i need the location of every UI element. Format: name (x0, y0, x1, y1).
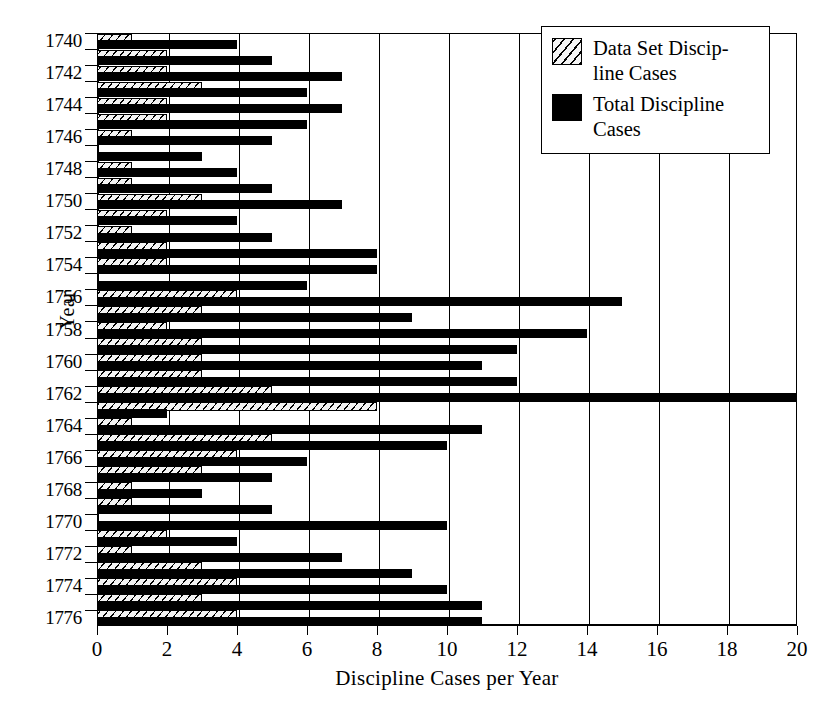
y-axis-tick (85, 562, 97, 563)
y-axis-tick (85, 129, 97, 130)
y-axis-tick (85, 305, 97, 306)
y-axis-tick (85, 145, 97, 146)
y-axis-tick (85, 177, 97, 178)
y-axis-tick (85, 418, 97, 419)
y-axis-tick-label: 1744 (12, 94, 82, 116)
y-axis-tick (85, 49, 97, 50)
y-axis-tick-label: 1758 (12, 319, 82, 341)
bar-total-1764 (97, 425, 482, 434)
bar-total-1751 (97, 216, 237, 225)
y-axis-tick (85, 225, 97, 226)
y-axis-tick (85, 354, 97, 355)
legend-swatch-solid-icon (552, 94, 582, 121)
y-axis-tick-label: 1752 (12, 222, 82, 244)
x-axis-tick-label: 20 (767, 637, 816, 662)
bar-total-1740 (97, 40, 237, 49)
y-axis-tick-label: 1774 (12, 575, 82, 597)
bar-total-1745 (97, 120, 307, 129)
legend-label-dataset: Data Set Discip- line Cases (593, 36, 729, 86)
bar-total-1776 (97, 617, 482, 626)
y-axis-tick (85, 273, 97, 274)
bar-total-1757 (97, 313, 412, 322)
x-axis-tick (657, 626, 658, 635)
y-axis-tick (85, 578, 97, 579)
bar-total-1747 (97, 152, 202, 161)
x-axis-tick (797, 626, 798, 635)
y-axis-tick-label: 1750 (12, 190, 82, 212)
y-axis-tick-label: 1748 (12, 158, 82, 180)
x-axis-tick (237, 626, 238, 635)
legend-label-total-line1: Total Discipline (593, 92, 724, 117)
y-axis-tick-label: 1740 (12, 30, 82, 52)
y-axis-tick (85, 33, 97, 34)
bar-total-1752 (97, 233, 272, 242)
legend-item-total: Total Discipline Cases (552, 92, 761, 142)
x-axis-title: Discipline Cases per Year (97, 666, 797, 691)
bar-total-1741 (97, 56, 272, 65)
y-axis-tick (85, 466, 97, 467)
y-axis-tick (85, 450, 97, 451)
y-axis-tick (85, 514, 97, 515)
bar-total-1769 (97, 505, 272, 514)
bar-total-1750 (97, 200, 342, 209)
y-axis-tick (85, 257, 97, 258)
y-axis-tick-label: 1756 (12, 286, 82, 308)
bar-total-1766 (97, 457, 307, 466)
legend-label-dataset-line2: line Cases (593, 61, 729, 86)
y-axis-tick-label: 1772 (12, 543, 82, 565)
x-axis-tick (307, 626, 308, 635)
bar-total-1749 (97, 184, 272, 193)
y-axis-tick-label: 1746 (12, 126, 82, 148)
y-axis-tick (85, 81, 97, 82)
x-axis-tick-label: 18 (697, 637, 757, 662)
bar-total-1763 (97, 409, 167, 418)
x-axis-tick (447, 626, 448, 635)
y-axis-tick (85, 193, 97, 194)
legend-swatch-hatched-icon (552, 38, 582, 65)
y-axis-tick-label: 1776 (12, 607, 82, 629)
y-axis-tick-label: 1766 (12, 447, 82, 469)
legend-label-dataset-line1: Data Set Discip- (593, 36, 729, 61)
y-axis-tick (85, 161, 97, 162)
y-axis-tick (85, 498, 97, 499)
legend-label-total-line2: Cases (593, 117, 724, 142)
x-axis-tick-label: 0 (67, 637, 127, 662)
bar-total-1748 (97, 168, 237, 177)
bar-total-1754 (97, 265, 377, 274)
bar-total-1746 (97, 136, 272, 145)
y-axis-tick (85, 370, 97, 371)
y-axis-tick (85, 610, 97, 611)
y-axis-tick-label: 1762 (12, 383, 82, 405)
x-axis-tick (167, 626, 168, 635)
legend-label-total: Total Discipline Cases (593, 92, 724, 142)
x-axis-tick (587, 626, 588, 635)
y-axis-tick (85, 402, 97, 403)
x-axis-tick-label: 8 (347, 637, 407, 662)
bar-total-1743 (97, 88, 307, 97)
bar-total-1775 (97, 601, 482, 610)
x-axis-tick-label: 10 (417, 637, 477, 662)
y-axis-tick (85, 113, 97, 114)
y-axis-tick (85, 386, 97, 387)
y-axis-tick (85, 209, 97, 210)
bar-total-1753 (97, 249, 377, 258)
bar-total-1768 (97, 489, 202, 498)
x-axis-tick (377, 626, 378, 635)
x-axis-tick (727, 626, 728, 635)
y-axis-tick (85, 594, 97, 595)
y-axis-tick (85, 65, 97, 66)
y-axis-tick-label: 1764 (12, 415, 82, 437)
bar-total-1742 (97, 72, 342, 81)
bar-chart: Year 17401742174417461748175017521754175… (0, 0, 816, 705)
bar-total-1773 (97, 569, 412, 578)
y-axis-tick (85, 434, 97, 435)
bar-total-1760 (97, 361, 482, 370)
bar-total-1744 (97, 104, 342, 113)
x-axis-tick-label: 14 (557, 637, 617, 662)
y-axis-tick (85, 321, 97, 322)
y-axis-tick (85, 530, 97, 531)
y-axis-tick-label: 1770 (12, 511, 82, 533)
x-axis-tick-label: 12 (487, 637, 547, 662)
y-axis-tick-label: 1768 (12, 479, 82, 501)
y-axis-tick (85, 241, 97, 242)
